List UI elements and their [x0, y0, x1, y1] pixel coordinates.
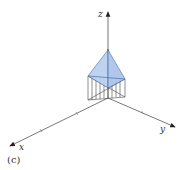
figure-caption: (c): [7, 154, 21, 165]
y-axis: [108, 98, 175, 127]
diagram-canvas: z x y (c): [0, 0, 182, 170]
y-axis-label: y: [159, 124, 166, 134]
z-axis-label: z: [97, 9, 103, 19]
x-axis: [10, 98, 108, 146]
x-axis-label: x: [19, 142, 24, 152]
pyramid-surface: [88, 49, 125, 88]
